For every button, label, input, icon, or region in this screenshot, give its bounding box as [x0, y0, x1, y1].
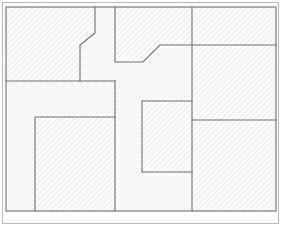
room-top-right[interactable]	[192, 7, 276, 45]
room-right-middle[interactable]	[192, 45, 276, 120]
diagram-root	[0, 0, 282, 228]
room-right-bottom[interactable]	[192, 120, 276, 211]
room-bottom-left[interactable]	[35, 117, 115, 211]
floorplan-svg[interactable]	[0, 0, 282, 228]
floorplan-canvas[interactable]	[0, 0, 282, 228]
room-center-block[interactable]	[142, 101, 192, 172]
